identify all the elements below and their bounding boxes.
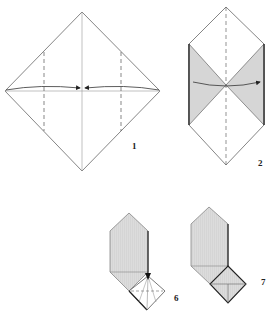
step-number-label: 6 — [174, 293, 179, 303]
origami-diagram — [0, 0, 272, 328]
step-number-label: 2 — [258, 158, 263, 168]
step-2-diagram — [189, 7, 264, 165]
step-6-diagram — [110, 213, 165, 310]
step-number-label: 7 — [261, 277, 266, 287]
step-number-label: 1 — [132, 141, 137, 151]
step-7-diagram — [191, 207, 246, 303]
